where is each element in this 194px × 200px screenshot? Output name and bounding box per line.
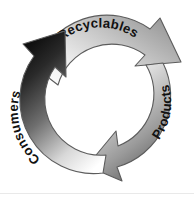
baseline-rule bbox=[0, 193, 194, 194]
recycling-cycle-diagram: Recyclables Products Consumers bbox=[0, 0, 194, 200]
segment-consumers: Consumers bbox=[6, 31, 106, 174]
cycle-diagram-canvas: Recyclables Products Consumers bbox=[0, 0, 194, 200]
